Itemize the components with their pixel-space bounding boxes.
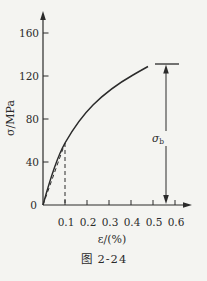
figure-2-24: 0 40 80 120 160 0.1 0.2 0.3 0.4 0.5 0.6 … (0, 0, 207, 281)
down-arrowhead-icon (163, 195, 169, 204)
x-ticks (65, 200, 175, 205)
y-tick-label-0: 0 (30, 199, 37, 211)
figure-caption: 图 2-24 (81, 252, 128, 266)
x-tick-label-04: 0.4 (124, 216, 141, 228)
y-axis-arrow-icon (40, 11, 46, 20)
sigma-b-annotation: σb (152, 64, 179, 204)
y-tick-label-120: 120 (19, 70, 39, 82)
sigma-b-label: σb (152, 132, 164, 146)
y-axis-title: σ/MPa (4, 100, 17, 136)
y-ticks (43, 33, 49, 162)
x-tick-label-06: 0.6 (168, 216, 185, 228)
axes (43, 18, 186, 205)
x-tick-label-05: 0.5 (146, 216, 163, 228)
stress-strain-curve (43, 67, 148, 206)
y-tick-label-160: 160 (19, 27, 39, 39)
x-tick-label-03: 0.3 (102, 216, 119, 228)
y-tick-label-80: 80 (26, 113, 39, 125)
x-tick-label-01: 0.1 (58, 216, 75, 228)
x-tick-label-02: 0.2 (80, 216, 97, 228)
x-axis-arrow-icon (183, 202, 192, 208)
x-axis-title: ε/(%) (98, 233, 126, 246)
stress-strain-chart: 0 40 80 120 160 0.1 0.2 0.3 0.4 0.5 0.6 … (0, 0, 207, 281)
y-tick-label-40: 40 (26, 156, 39, 168)
up-arrowhead-icon (163, 65, 169, 74)
